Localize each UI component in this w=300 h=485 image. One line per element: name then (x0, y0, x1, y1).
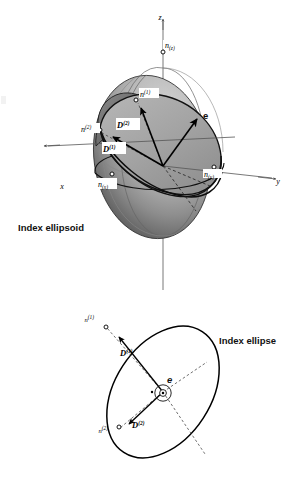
label-D1-sup: (1) (109, 144, 115, 151)
caption-index-ellipsoid: Index ellipsoid (18, 222, 84, 233)
axis-label-x: x (59, 182, 64, 191)
label-n2-upper: n(2) (80, 123, 100, 134)
figure-root: z y x n(z) n(y) n(x) n (0, 0, 300, 485)
label-n1-sup: (1) (144, 89, 150, 96)
label-D2-upper: D(2) (116, 118, 140, 130)
label-D1-lower-base: D (119, 348, 126, 358)
label-e-lower: e (167, 374, 173, 385)
label-e-upper: e (203, 110, 208, 121)
page-background (0, 0, 300, 485)
label-nz-sub: (z) (169, 45, 175, 52)
e-side-dot (151, 391, 153, 393)
point-n1-lower (104, 325, 108, 329)
label-D2-sup: (2) (123, 120, 129, 127)
point-n1 (134, 98, 138, 102)
e-center-dot (162, 392, 165, 395)
scan-artifact (1, 96, 6, 104)
label-n1-upper: n(1) (139, 88, 159, 99)
label-D1-lower-sup: (1) (126, 348, 132, 355)
point-nx (110, 172, 114, 176)
label-D2-base: D (116, 120, 123, 130)
label-D1-base: D (102, 144, 109, 154)
label-n2-sup: (2) (85, 124, 91, 131)
axis-label-y: y (275, 177, 280, 186)
label-nx-sub: (x) (102, 184, 108, 191)
label-D1-upper: D(1) (102, 142, 126, 154)
label-n2-lower-sup: (2) (102, 425, 108, 432)
point-n2-lower (117, 425, 121, 429)
point-ny (212, 165, 216, 169)
label-ny-sub: (y) (208, 174, 214, 181)
label-D2-lower-base: D (131, 420, 138, 430)
label-D2-lower-sup: (2) (138, 420, 144, 427)
point-nz (161, 50, 165, 54)
caption-index-ellipse: Index ellipse (219, 335, 276, 346)
label-n1-lower-sup: (1) (88, 314, 94, 321)
